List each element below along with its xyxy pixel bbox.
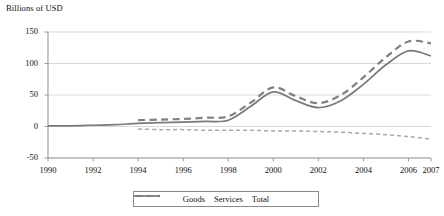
data-series-group	[48, 41, 431, 139]
legend-label-goods: Goods	[183, 194, 205, 204]
legend-item-goods[interactable]: Goods	[183, 194, 205, 204]
x-tick-label: 2002	[298, 165, 338, 175]
legend-label-total: Total	[252, 194, 269, 204]
chart-legend: Goods Services Total	[133, 191, 319, 207]
y-tick-label: 150	[8, 26, 38, 36]
series-line-services	[138, 129, 431, 139]
legend-item-services[interactable]: Services	[214, 194, 243, 204]
legend-item-total[interactable]: Total	[252, 194, 269, 204]
x-tick-label: 2004	[343, 165, 383, 175]
y-tick-label: 0	[8, 121, 38, 131]
x-tick-label: 1992	[73, 165, 113, 175]
series-line-goods	[138, 41, 431, 120]
solid-line-swatch	[134, 192, 160, 200]
x-tick-label: 1990	[28, 165, 68, 175]
x-tick-label: 2007	[411, 165, 444, 175]
x-tick-label: 2000	[253, 165, 293, 175]
x-tick-label: 1994	[118, 165, 158, 175]
gridline-group	[48, 32, 431, 158]
y-tick-label: 50	[8, 89, 38, 99]
x-tick-label: 1998	[208, 165, 248, 175]
y-tick-label: 100	[8, 58, 38, 68]
x-tick-label: 1996	[163, 165, 203, 175]
series-line-total	[48, 51, 431, 126]
y-tick-label: -50	[8, 152, 38, 162]
legend-label-services: Services	[214, 194, 243, 204]
